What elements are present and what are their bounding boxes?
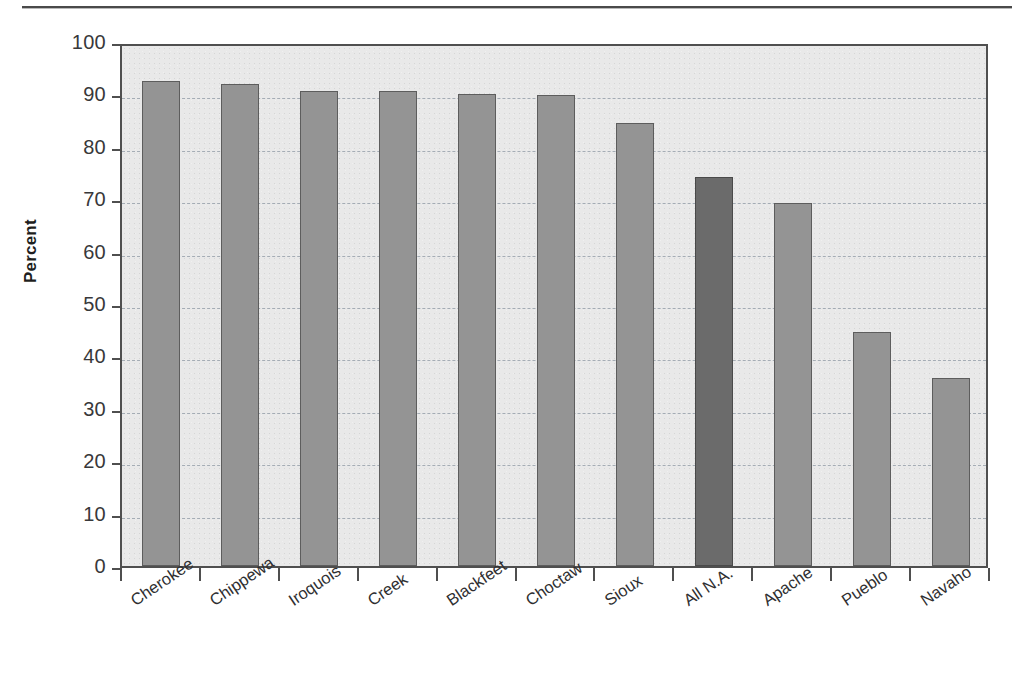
x-axis-tick-label: Sioux bbox=[601, 571, 646, 610]
bar-creek bbox=[379, 91, 417, 566]
bar-apache bbox=[774, 203, 812, 566]
x-axis-tick-label: All N.A. bbox=[680, 563, 736, 610]
y-axis-tick-label: 70 bbox=[44, 188, 106, 211]
bar-iroquois bbox=[300, 91, 338, 566]
y-axis-tick-label: 20 bbox=[44, 450, 106, 473]
x-axis-tick-label: Pueblo bbox=[838, 565, 891, 609]
bar-sioux bbox=[616, 123, 654, 566]
x-axis-tick-label: Navaho bbox=[917, 562, 975, 610]
y-axis-tick-label: 100 bbox=[44, 31, 106, 54]
bar-chart-figure: Percent 0102030405060708090100 CherokeeC… bbox=[0, 0, 1016, 688]
bar-chippewa bbox=[221, 84, 259, 566]
x-axis-tick bbox=[672, 568, 674, 581]
x-axis-tick-label: Apache bbox=[759, 563, 816, 610]
x-axis-tick bbox=[436, 568, 438, 581]
y-axis-tick-label: 60 bbox=[44, 241, 106, 264]
bar-cherokee bbox=[142, 81, 180, 566]
x-axis-tick-label: Iroquois bbox=[285, 561, 344, 610]
x-axis-tick bbox=[199, 568, 201, 581]
bar-blackfeet bbox=[458, 94, 496, 566]
y-axis-title: Percent bbox=[21, 253, 41, 283]
x-axis-tick bbox=[751, 568, 753, 581]
bar-all-n-a bbox=[695, 177, 733, 566]
x-axis-tick bbox=[830, 568, 832, 581]
x-axis-tick bbox=[357, 568, 359, 581]
bar-navaho bbox=[932, 378, 970, 566]
x-axis-tick-label: Creek bbox=[364, 569, 411, 609]
y-axis-tick-label: 0 bbox=[44, 555, 106, 578]
x-axis-tick bbox=[120, 568, 122, 581]
y-axis-tick-label: 90 bbox=[44, 83, 106, 106]
y-axis-tick-label: 30 bbox=[44, 398, 106, 421]
bar-choctaw bbox=[537, 95, 575, 566]
bar-pueblo bbox=[853, 332, 891, 566]
x-axis-tick bbox=[515, 568, 517, 581]
y-axis-tick-label: 80 bbox=[44, 136, 106, 159]
plot-area bbox=[120, 44, 988, 568]
x-axis-tick bbox=[278, 568, 280, 581]
y-axis-tick-label: 40 bbox=[44, 345, 106, 368]
x-axis-tick bbox=[593, 568, 595, 581]
y-axis-tick-label: 50 bbox=[44, 293, 106, 316]
y-axis-tick-label: 10 bbox=[44, 503, 106, 526]
x-axis-tick bbox=[909, 568, 911, 581]
x-axis-tick bbox=[988, 568, 990, 581]
page-divider-rule bbox=[22, 6, 1012, 8]
